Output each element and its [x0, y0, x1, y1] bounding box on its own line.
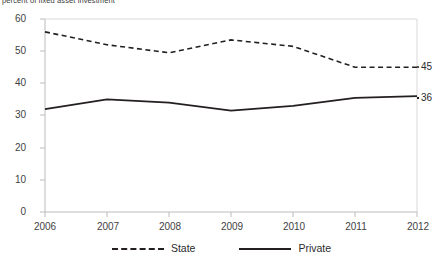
- plot-area: [0, 0, 443, 260]
- x-tick-marks: [45, 212, 417, 217]
- legend-label-state: State: [171, 243, 196, 254]
- chart-legend: State Private: [0, 243, 443, 254]
- chart-container: percent of fixed asset investment 60 50 …: [0, 0, 443, 260]
- legend-item-private[interactable]: Private: [239, 243, 331, 254]
- axis-frame: [45, 19, 417, 212]
- series-line-state: [45, 32, 417, 67]
- legend-swatch-dashed-icon: [112, 248, 164, 250]
- legend-label-private: Private: [298, 243, 331, 254]
- series-line-private: [45, 96, 417, 110]
- legend-item-state[interactable]: State: [112, 243, 196, 254]
- legend-swatch-solid-icon: [239, 248, 291, 250]
- y-tick-marks: [40, 19, 45, 212]
